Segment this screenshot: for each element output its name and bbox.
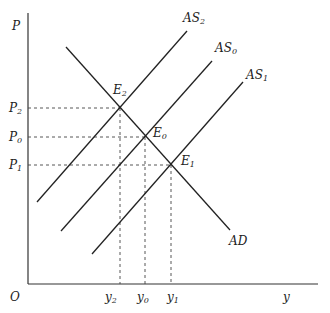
price-label-p2: P2 xyxy=(9,102,22,116)
curve-label-as0: AS0 xyxy=(215,42,237,56)
output-label-y1: y1 xyxy=(167,291,179,305)
x-axis-label: y xyxy=(283,291,290,303)
curve-label-ad: AD xyxy=(229,235,247,247)
as2-curve xyxy=(37,31,187,202)
diagram-canvas xyxy=(0,0,330,313)
price-label-p1: P1 xyxy=(9,159,22,173)
origin-label: O xyxy=(10,291,20,303)
y-axis-label: P xyxy=(12,20,20,32)
curve-label-as2: AS2 xyxy=(183,12,205,26)
equilibrium-label-e1: E1 xyxy=(181,155,195,169)
equilibrium-label-e0: E0 xyxy=(153,127,167,141)
price-label-p0: P0 xyxy=(9,131,22,145)
as0-curve xyxy=(61,61,212,231)
output-label-y2: y2 xyxy=(105,291,117,305)
ad-curve xyxy=(66,47,230,230)
output-label-y0: y0 xyxy=(137,291,149,305)
equilibrium-label-e2: E2 xyxy=(113,84,127,98)
ad-as-diagram: P O y P2 P0 P1 y2 y0 y1 AS2 AS0 AS1 AD E… xyxy=(0,0,330,313)
curve-label-as1: AS1 xyxy=(246,69,268,83)
